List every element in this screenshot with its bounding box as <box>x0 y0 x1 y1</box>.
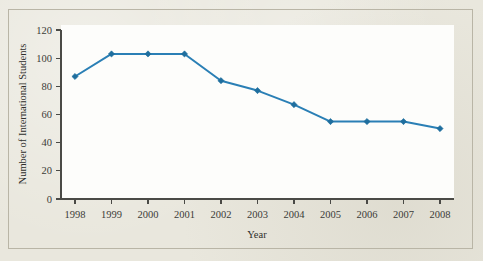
x-tick-label: 1998 <box>65 209 86 220</box>
x-tick-label: 2005 <box>320 209 341 220</box>
x-tick-label: 2008 <box>430 209 451 220</box>
data-point-marker <box>437 125 443 131</box>
y-tick-label: 100 <box>36 53 52 64</box>
y-tick-label: 80 <box>42 81 53 92</box>
data-point-marker <box>291 102 297 108</box>
y-tick-labels: 020406080100120 <box>36 25 52 205</box>
x-tick-label: 2004 <box>284 209 306 220</box>
y-tick-label: 120 <box>36 25 52 36</box>
series-markers <box>72 51 443 132</box>
chart-figure: 020406080100120 Number of International … <box>0 0 483 261</box>
y-axis-title: Number of International Students <box>17 44 28 185</box>
y-tick-label: 40 <box>42 137 53 148</box>
data-point-marker <box>364 118 370 124</box>
y-tick-marks <box>56 30 61 199</box>
x-tick-label: 2003 <box>247 209 268 220</box>
x-axis-title: Year <box>247 229 267 240</box>
line-chart: 020406080100120 Number of International … <box>0 0 483 261</box>
y-tick-label: 0 <box>47 194 52 205</box>
y-tick-label: 20 <box>42 165 53 176</box>
x-tick-label: 2006 <box>357 209 378 220</box>
data-series <box>72 51 443 132</box>
y-tick-label: 60 <box>42 109 53 120</box>
y-axis: 020406080100120 Number of International … <box>17 25 61 205</box>
x-tick-marks <box>75 199 440 204</box>
data-point-marker <box>400 118 406 124</box>
x-tick-label: 2001 <box>174 209 195 220</box>
data-point-marker <box>254 87 260 93</box>
x-axis: 1998199920002001200220032004200520062007… <box>61 199 454 240</box>
x-tick-label: 2002 <box>211 209 232 220</box>
data-point-marker <box>145 51 151 57</box>
data-point-marker <box>327 118 333 124</box>
x-tick-label: 1999 <box>101 209 122 220</box>
x-tick-labels: 1998199920002001200220032004200520062007… <box>65 209 451 220</box>
x-tick-label: 2000 <box>138 209 159 220</box>
x-tick-label: 2007 <box>393 209 414 220</box>
